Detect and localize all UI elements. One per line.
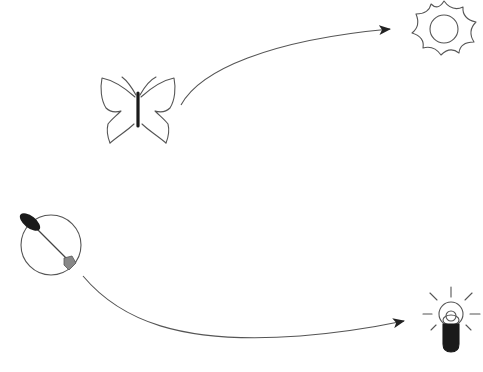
compass-needle-icon: [17, 210, 81, 275]
arrow-butterfly-to-sun: [181, 29, 390, 105]
sun-icon: [412, 1, 476, 55]
arrow-compass-to-bulb: [83, 276, 404, 338]
diagram-canvas: [0, 0, 483, 372]
lightbulb-icon: [423, 287, 480, 352]
butterfly-icon: [101, 77, 175, 143]
